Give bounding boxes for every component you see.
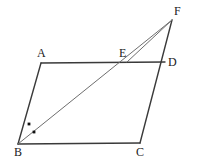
segment-CF bbox=[140, 20, 172, 143]
vertex-label-a: A bbox=[37, 47, 46, 59]
geometry-figure: A B C D E F bbox=[0, 0, 198, 160]
segment-AD bbox=[41, 62, 165, 63]
vertex-label-f: F bbox=[174, 5, 181, 17]
geometry-canvas bbox=[0, 0, 198, 160]
segment-EF bbox=[127, 20, 172, 62]
vertex-label-b: B bbox=[14, 146, 22, 158]
vertex-label-e: E bbox=[119, 47, 126, 59]
diagonal-lines bbox=[18, 20, 172, 144]
segment-BF bbox=[18, 20, 172, 144]
angle-mark-ebc bbox=[33, 131, 36, 134]
angle-marks bbox=[28, 123, 36, 134]
segment-AB bbox=[18, 63, 41, 144]
vertex-label-d: D bbox=[168, 56, 177, 68]
vertex-label-c: C bbox=[136, 146, 144, 158]
segment-BC bbox=[18, 143, 140, 144]
angle-mark-abe bbox=[28, 123, 31, 126]
